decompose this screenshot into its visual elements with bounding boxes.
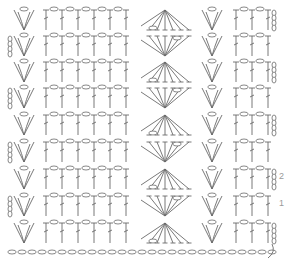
- chain-stitch-icon: [240, 7, 248, 11]
- chain-stitch-icon: [82, 33, 90, 37]
- chain-stitch-icon: [98, 59, 106, 63]
- chain-stitch-icon: [138, 250, 146, 254]
- chain-stitch-icon: [108, 250, 116, 254]
- chain-stitch-icon: [240, 220, 248, 224]
- chain-stitch-icon: [256, 139, 264, 143]
- chain-stitch-icon: [66, 7, 74, 11]
- v-stitch-icon: [14, 196, 34, 216]
- v-stitch-icon: [14, 142, 34, 162]
- chain-stitch-icon: [149, 239, 157, 243]
- turning-chain-icon: [8, 211, 12, 217]
- chain-stitch-icon: [50, 59, 58, 63]
- chain-stitch-icon: [178, 250, 186, 254]
- chain-stitch-icon: [114, 59, 122, 63]
- v-stitch-icon: [202, 142, 222, 162]
- fan-stitch-icon: [149, 36, 165, 56]
- chain-stitch-icon: [208, 220, 216, 224]
- chain-stitch-icon: [18, 250, 26, 254]
- chain-stitch-icon: [240, 112, 248, 116]
- chain-stitch-icon: [240, 59, 248, 63]
- v-stitch-icon: [202, 115, 222, 135]
- fan-stitch-icon: [149, 142, 165, 162]
- v-stitch-icon: [202, 36, 222, 56]
- chain-stitch-icon: [20, 139, 28, 143]
- chain-stitch-icon: [82, 7, 90, 11]
- fan-stitch-icon: [149, 196, 165, 216]
- chain-stitch-icon: [208, 139, 216, 143]
- chain-stitch-icon: [208, 250, 216, 254]
- chain-stitch-icon: [98, 139, 106, 143]
- chain-stitch-icon: [50, 33, 58, 37]
- chain-stitch-icon: [66, 112, 74, 116]
- v-stitch-icon: [14, 88, 34, 108]
- chain-stitch-icon: [240, 166, 248, 170]
- chain-stitch-icon: [82, 112, 90, 116]
- turning-chain-icon: [272, 184, 276, 190]
- chain-stitch-icon: [114, 139, 122, 143]
- chain-stitch-icon: [8, 250, 16, 254]
- chain-stitch-icon: [20, 166, 28, 170]
- chain-stitch-icon: [173, 142, 181, 146]
- v-stitch-icon: [202, 196, 222, 216]
- chain-stitch-icon: [240, 193, 248, 197]
- chain-stitch-icon: [208, 7, 216, 11]
- chain-stitch-icon: [256, 112, 264, 116]
- fan-stitch-icon: [165, 62, 181, 82]
- chain-stitch-icon: [238, 250, 246, 254]
- chain-stitch-icon: [114, 220, 122, 224]
- chain-stitch-icon: [20, 85, 28, 89]
- chain-stitch-icon: [66, 33, 74, 37]
- chain-stitch-icon: [256, 85, 264, 89]
- chain-stitch-icon: [158, 250, 166, 254]
- chain-stitch-icon: [218, 250, 226, 254]
- chain-stitch-icon: [149, 185, 157, 189]
- chain-stitch-icon: [208, 112, 216, 116]
- chain-stitch-icon: [58, 250, 66, 254]
- chain-stitch-icon: [20, 112, 28, 116]
- chain-stitch-icon: [149, 26, 157, 30]
- chain-stitch-icon: [256, 33, 264, 37]
- chain-stitch-icon: [66, 59, 74, 63]
- chain-stitch-icon: [149, 131, 157, 135]
- chain-stitch-icon: [173, 36, 181, 40]
- chain-stitch-icon: [50, 85, 58, 89]
- chain-stitch-icon: [98, 220, 106, 224]
- chain-stitch-icon: [208, 33, 216, 37]
- v-stitch-icon: [202, 62, 222, 82]
- chain-stitch-icon: [98, 250, 106, 254]
- chain-stitch-icon: [188, 250, 196, 254]
- chain-stitch-icon: [68, 250, 76, 254]
- row-label-1: 1: [279, 198, 284, 208]
- chain-stitch-icon: [82, 59, 90, 63]
- chain-stitch-icon: [50, 166, 58, 170]
- fan-stitch-icon: [165, 115, 181, 135]
- chain-stitch-icon: [98, 7, 106, 11]
- chain-stitch-icon: [114, 33, 122, 37]
- chain-stitch-icon: [240, 33, 248, 37]
- fan-stitch-icon: [165, 169, 181, 189]
- chain-stitch-icon: [208, 59, 216, 63]
- chain-stitch-icon: [20, 59, 28, 63]
- chain-stitch-icon: [114, 112, 122, 116]
- chain-stitch-icon: [98, 112, 106, 116]
- chain-stitch-icon: [48, 250, 56, 254]
- crochet-chart: [0, 0, 286, 280]
- chain-stitch-icon: [114, 85, 122, 89]
- chain-stitch-icon: [114, 166, 122, 170]
- chain-stitch-icon: [98, 33, 106, 37]
- turning-chain-icon: [8, 103, 12, 109]
- chain-stitch-icon: [148, 250, 156, 254]
- chain-stitch-icon: [66, 166, 74, 170]
- v-stitch-icon: [202, 223, 222, 243]
- chain-stitch-icon: [98, 85, 106, 89]
- row-label-2: 2: [279, 171, 284, 181]
- chain-stitch-icon: [50, 7, 58, 11]
- chain-stitch-icon: [20, 193, 28, 197]
- v-stitch-icon: [14, 10, 34, 30]
- chain-stitch-icon: [173, 88, 181, 92]
- chain-stitch-icon: [88, 250, 96, 254]
- chain-stitch-icon: [208, 85, 216, 89]
- chain-stitch-icon: [66, 85, 74, 89]
- chain-stitch-icon: [20, 33, 28, 37]
- chain-stitch-icon: [20, 7, 28, 11]
